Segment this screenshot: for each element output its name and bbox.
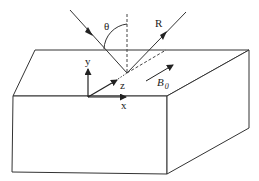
reflected-label: R <box>155 17 163 29</box>
x-axis-label: x <box>121 99 127 111</box>
z-axis-label: z <box>120 79 125 91</box>
y-axis-label: y <box>85 55 91 67</box>
slab-front-face <box>12 96 167 174</box>
reflection-diagram: θ R y x z B0 <box>0 0 259 181</box>
slab <box>12 50 249 174</box>
theta-label: θ <box>104 20 109 32</box>
reflected-arrow-icon <box>160 31 167 40</box>
